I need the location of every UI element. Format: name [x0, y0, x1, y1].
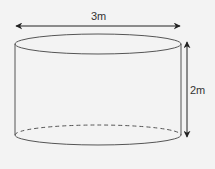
cylinder-diagram: 3m 2m — [0, 0, 215, 169]
height-label: 2m — [190, 84, 205, 96]
cylinder-drawing — [0, 0, 215, 169]
cylinder-bottom-back-arc — [15, 125, 181, 135]
width-label: 3m — [91, 10, 106, 22]
cylinder-top-ellipse — [15, 34, 181, 54]
cylinder-bottom-front-arc — [15, 135, 181, 145]
